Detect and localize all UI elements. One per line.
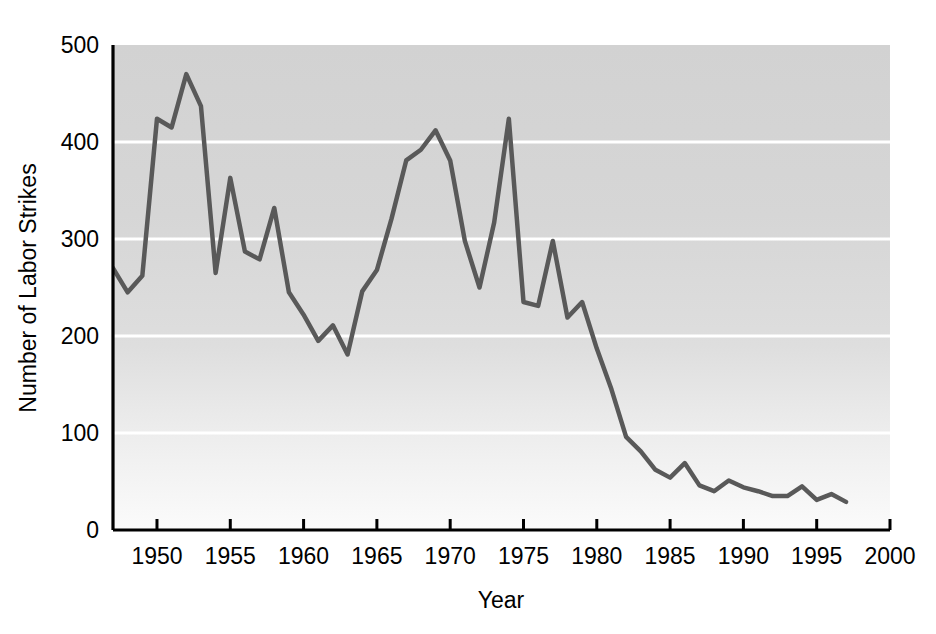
x-axis-tick-labels: 1950195519601965197019751980198519901995… — [131, 543, 915, 569]
y-tick-label: 300 — [61, 226, 99, 252]
x-axis-title: Year — [478, 587, 525, 613]
x-tick-label: 1955 — [205, 543, 256, 569]
x-tick-label: 1970 — [425, 543, 476, 569]
y-tick-label: 0 — [86, 517, 99, 543]
chart-figure: 1950195519601965197019751980198519901995… — [0, 0, 936, 634]
x-tick-label: 1985 — [645, 543, 696, 569]
x-tick-label: 1995 — [791, 543, 842, 569]
y-tick-label: 100 — [61, 420, 99, 446]
y-tick-label: 400 — [61, 129, 99, 155]
y-axis-title: Number of Labor Strikes — [15, 163, 41, 412]
x-tick-label: 1960 — [278, 543, 329, 569]
y-tick-label: 200 — [61, 323, 99, 349]
y-tick-label: 500 — [61, 32, 99, 58]
x-tick-label: 1975 — [498, 543, 549, 569]
y-axis-tick-labels: 0100200300400500 — [61, 32, 99, 543]
x-tick-label: 2000 — [864, 543, 915, 569]
x-tick-label: 1980 — [571, 543, 622, 569]
plot-area-background — [113, 45, 890, 530]
x-tick-label: 1965 — [351, 543, 402, 569]
line-chart: 1950195519601965197019751980198519901995… — [0, 0, 936, 634]
x-tick-label: 1950 — [131, 543, 182, 569]
x-tick-label: 1990 — [718, 543, 769, 569]
